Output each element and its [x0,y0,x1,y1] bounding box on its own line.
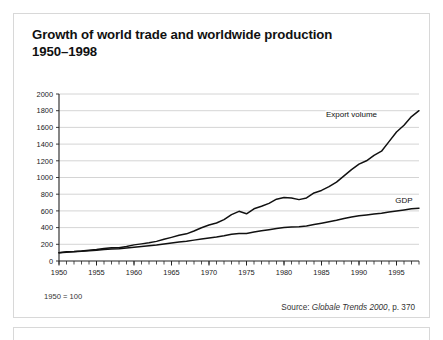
x-tick-label: 1985 [313,268,329,277]
source-title: Globale Trends 2000 [312,303,388,312]
line-chart: 0200400600800100012001400160018002000 19… [14,14,431,319]
screenshot-root: Growth of world trade and worldwide prod… [0,0,443,340]
source-prefix: Source: [281,303,309,312]
series-line-gdp [59,208,419,253]
series-line-export-volume [59,111,419,253]
secondary-card [13,327,430,340]
series-label-export-volume: Export volume [326,110,378,119]
y-tick-label: 1200 [37,157,53,166]
x-axis-labels: 1950195519601965197019751980198519901995 [51,268,405,277]
plot-area: 0200400600800100012001400160018002000 19… [14,14,431,319]
y-tick-label: 800 [41,190,53,199]
chart-card: Growth of world trade and worldwide prod… [13,13,430,318]
x-tick-label: 1990 [351,268,367,277]
x-tick-label: 1960 [126,268,142,277]
y-tick-label: 1000 [37,173,53,182]
y-tick-label: 400 [41,223,53,232]
data-series [59,111,419,253]
y-tick-label: 600 [41,207,53,216]
axis-ticks [56,94,419,266]
y-tick-label: 1400 [37,140,53,149]
series-label-gdp: GDP [395,196,412,205]
source-note: Source: Globale Trends 2000, p. 370 [281,303,415,312]
source-page: , p. 370 [388,303,415,312]
y-tick-label: 0 [49,257,53,266]
x-tick-label: 1970 [201,268,217,277]
y-tick-label: 2000 [37,90,53,99]
y-tick-label: 200 [41,240,53,249]
x-tick-label: 1975 [238,268,254,277]
x-tick-label: 1965 [163,268,179,277]
base-index-note: 1950 = 100 [44,292,82,301]
x-tick-label: 1995 [388,268,404,277]
y-tick-label: 1800 [37,106,53,115]
x-tick-label: 1955 [88,268,104,277]
y-tick-label: 1600 [37,123,53,132]
x-tick-label: 1950 [51,268,67,277]
y-axis-labels: 0200400600800100012001400160018002000 [37,90,53,266]
x-tick-label: 1980 [276,268,292,277]
series-annotations: Export volumeExport volumeGDPGDP [326,110,413,204]
